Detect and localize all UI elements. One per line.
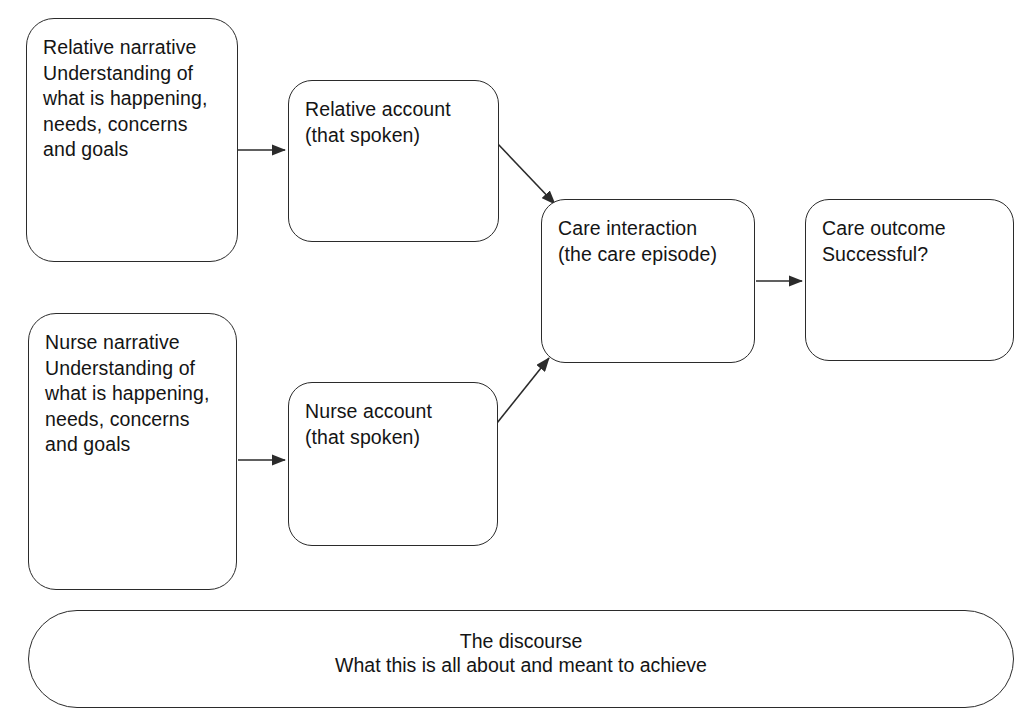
node-nurse-account-label: Nurse account (that spoken) — [305, 399, 483, 450]
edge-relative-account-to-care-interaction — [497, 143, 555, 204]
node-relative-account-label: Relative account (that spoken) — [305, 97, 484, 148]
node-care-interaction-label: Care interaction (the care episode) — [558, 216, 740, 267]
node-care-interaction: Care interaction (the care episode) — [541, 199, 755, 363]
node-nurse-narrative: Nurse narrative Understanding of what is… — [28, 313, 237, 590]
discourse-bar-content: The discourse What this is all about and… — [29, 611, 1013, 707]
node-relative-narrative: Relative narrative Understanding of what… — [26, 18, 238, 262]
node-discourse-bar: The discourse What this is all about and… — [28, 610, 1014, 708]
node-nurse-account: Nurse account (that spoken) — [288, 382, 498, 546]
node-relative-narrative-label: Relative narrative Understanding of what… — [43, 35, 223, 163]
node-care-outcome-label: Care outcome Successful? — [822, 216, 999, 267]
edge-nurse-account-to-care-interaction — [497, 358, 549, 423]
node-care-outcome: Care outcome Successful? — [805, 199, 1014, 361]
node-nurse-narrative-label: Nurse narrative Understanding of what is… — [45, 330, 222, 458]
discourse-title: The discourse — [29, 629, 1013, 653]
diagram-canvas: Relative narrative Understanding of what… — [0, 0, 1035, 727]
node-relative-account: Relative account (that spoken) — [288, 80, 499, 242]
discourse-subtitle: What this is all about and meant to achi… — [29, 653, 1013, 677]
